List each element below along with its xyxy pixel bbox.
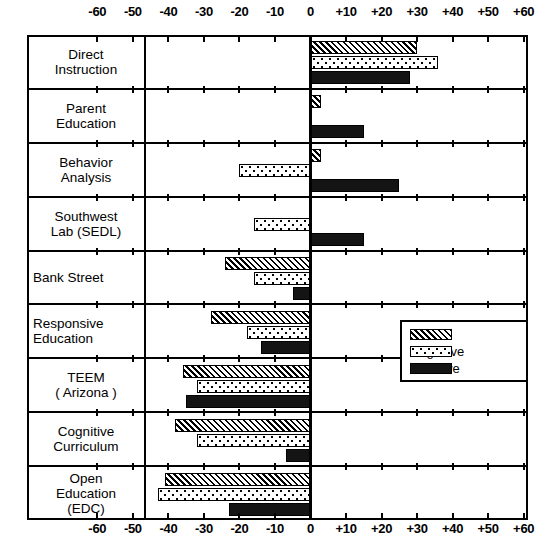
axis-tick-mark <box>487 301 489 308</box>
axis-tick-mark <box>96 194 98 201</box>
axis-tick-mark <box>452 86 454 93</box>
axis-tick-mark <box>487 248 489 255</box>
bar-basics <box>165 473 311 486</box>
axis-tick-mark <box>238 86 240 93</box>
axis-tick-mark <box>274 301 276 308</box>
axis-tick-label: -40 <box>159 4 177 19</box>
axis-tick-mark <box>274 248 276 255</box>
axis-tick-mark <box>452 140 454 147</box>
axis-tick-mark <box>523 86 525 93</box>
axis-tick-mark <box>274 86 276 93</box>
category-label-line: Responsive <box>33 316 147 331</box>
bar-cognitive <box>239 164 310 177</box>
axis-tick-mark <box>167 355 169 362</box>
axis-tick-mark <box>167 86 169 93</box>
axis-tick-mark <box>238 301 240 308</box>
axis-tick-label: +60 <box>513 521 534 536</box>
bottom-axis-labels: -60-50-40-30-20-100+10+20+30+40+50+60 <box>0 521 542 537</box>
axis-tick-mark <box>523 301 525 308</box>
category-label-line: (EDC) <box>29 501 143 516</box>
axis-tick-label: 0 <box>307 521 314 536</box>
axis-tick-label: +10 <box>335 4 356 19</box>
axis-tick-label: +30 <box>407 521 428 536</box>
axis-tick-label: -40 <box>159 521 177 536</box>
axis-tick-label: +30 <box>407 4 428 19</box>
bar-cognitive <box>311 56 439 69</box>
category-label: Bank Street <box>29 270 147 285</box>
axis-tick-mark <box>345 355 347 362</box>
bar-cognitive <box>197 380 311 393</box>
axis-tick-mark <box>523 35 525 42</box>
axis-tick-mark <box>487 463 489 470</box>
axis-tick-mark <box>132 86 134 93</box>
bar-affective <box>311 179 400 192</box>
axis-tick-mark <box>167 140 169 147</box>
axis-tick-mark <box>96 409 98 416</box>
axis-tick-mark <box>132 409 134 416</box>
axis-tick-mark <box>487 140 489 147</box>
axis-tick-mark <box>203 463 205 470</box>
category-label: CognitiveCurriculum <box>29 424 143 454</box>
axis-tick-mark <box>523 140 525 147</box>
category-label-line: ( Arizona ) <box>29 385 143 400</box>
category-label-line: Education <box>29 116 143 131</box>
category-label-line: Cognitive <box>29 424 143 439</box>
axis-tick-mark <box>345 140 347 147</box>
category-label-line: Instruction <box>29 62 143 77</box>
axis-tick-mark <box>238 355 240 362</box>
axis-tick-mark <box>167 194 169 201</box>
axis-tick-mark <box>381 513 383 520</box>
axis-tick-mark <box>416 194 418 201</box>
axis-tick-mark <box>381 301 383 308</box>
axis-tick-mark <box>132 140 134 147</box>
axis-tick-mark <box>452 463 454 470</box>
axis-tick-mark <box>487 194 489 201</box>
axis-tick-mark <box>345 35 347 42</box>
bar-affective <box>186 395 310 408</box>
bar-affective <box>311 233 364 246</box>
legend-item-affective: Affective <box>410 360 520 377</box>
axis-tick-mark <box>132 355 134 362</box>
bar-basics <box>311 41 418 54</box>
axis-tick-label: -60 <box>88 4 106 19</box>
category-label-line: Behavior <box>29 155 143 170</box>
axis-tick-mark <box>238 248 240 255</box>
axis-tick-mark <box>345 301 347 308</box>
axis-tick-mark <box>416 86 418 93</box>
axis-tick-mark <box>96 463 98 470</box>
bar-cognitive <box>158 488 311 501</box>
axis-tick-mark <box>203 248 205 255</box>
axis-tick-mark <box>203 35 205 42</box>
axis-tick-label: +40 <box>442 4 463 19</box>
axis-tick-mark <box>487 35 489 42</box>
bar-cognitive <box>254 272 311 285</box>
category-label-line: Bank Street <box>33 270 147 285</box>
bar-cognitive <box>197 434 311 447</box>
axis-tick-mark <box>274 409 276 416</box>
axis-tick-mark <box>452 35 454 42</box>
bar-affective <box>286 449 311 462</box>
axis-tick-mark <box>416 140 418 147</box>
axis-tick-mark <box>381 409 383 416</box>
axis-tick-mark <box>96 140 98 147</box>
axis-tick-label: +10 <box>335 521 356 536</box>
diagonal-hatch-swatch-icon <box>410 329 452 340</box>
axis-tick-mark <box>452 301 454 308</box>
category-label: ParentEducation <box>29 101 143 131</box>
axis-tick-mark <box>167 513 169 520</box>
axis-tick-mark <box>381 355 383 362</box>
axis-tick-label: +20 <box>371 521 392 536</box>
bar-affective <box>229 503 311 516</box>
axis-tick-mark <box>487 513 489 520</box>
bar-basics <box>311 95 322 108</box>
axis-tick-mark <box>274 355 276 362</box>
bar-basics <box>175 419 310 432</box>
bar-basics <box>183 365 311 378</box>
axis-tick-mark <box>132 463 134 470</box>
axis-tick-mark <box>238 194 240 201</box>
category-label: OpenEducation(EDC) <box>29 471 143 516</box>
axis-tick-mark <box>381 248 383 255</box>
bar-basics <box>225 257 310 270</box>
solid-black-swatch-icon <box>410 363 452 374</box>
axis-tick-mark <box>96 301 98 308</box>
